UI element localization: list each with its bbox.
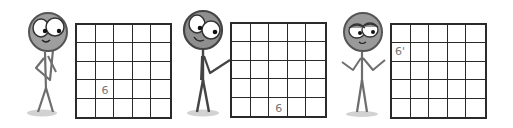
- grid-cell: [96, 62, 115, 80]
- ground-shadow: [187, 110, 219, 117]
- pupil: [358, 31, 362, 35]
- grid-cell: [269, 42, 288, 60]
- grid-5x5: 6: [75, 23, 172, 119]
- grid-cell: [232, 42, 251, 60]
- grid-cell: [288, 79, 307, 97]
- grid-2: 6: [230, 22, 327, 118]
- panel-3: 6': [330, 0, 513, 128]
- grid-cell: 6': [392, 43, 411, 61]
- grid-cell: [151, 25, 170, 43]
- grid-cell: [466, 43, 485, 61]
- grid-cell: [77, 80, 96, 98]
- grid-cell: [411, 99, 430, 117]
- grid-cell: [306, 98, 325, 116]
- grid-cell: [269, 24, 288, 42]
- grid-cell: [77, 25, 96, 43]
- grid-cell: [96, 99, 115, 117]
- panel-1: 6: [0, 0, 170, 128]
- grid-cell: [96, 43, 115, 61]
- pupil: [213, 30, 218, 35]
- grid-cell: [429, 99, 448, 117]
- grid-cell: [288, 98, 307, 116]
- pupil: [198, 26, 203, 31]
- grid-cell: [411, 43, 430, 61]
- grid-cell: [306, 42, 325, 60]
- grid-cell: [96, 25, 115, 43]
- ground-shadow: [346, 111, 378, 117]
- grid-1: 6: [75, 23, 172, 119]
- grid-cell: [251, 42, 270, 60]
- grid-cell: [466, 80, 485, 98]
- grid-cell: [251, 98, 270, 116]
- grid-cell: [232, 98, 251, 116]
- grid-cell: [466, 99, 485, 117]
- grid-cell: [251, 61, 270, 79]
- grid-cell: [288, 42, 307, 60]
- grid-cell: [269, 61, 288, 79]
- pupil: [43, 29, 47, 33]
- grid-cell: [306, 24, 325, 42]
- grid-cell: [133, 80, 152, 98]
- grid-cell: [448, 80, 467, 98]
- grid-cell: [429, 62, 448, 80]
- grid-cell: [77, 99, 96, 117]
- grid-cell: [448, 25, 467, 43]
- grid-cell: [429, 43, 448, 61]
- grid-cell: [392, 99, 411, 117]
- grid-cell: [251, 24, 270, 42]
- grid-cell: [151, 43, 170, 61]
- comic-strip: 6 6: [0, 0, 513, 128]
- grid-cell: [392, 62, 411, 80]
- grid-cell: 6: [269, 98, 288, 116]
- grid-5x5: 6': [390, 23, 487, 119]
- grid-cell: [306, 79, 325, 97]
- pupil: [57, 29, 61, 33]
- grid-cell: [392, 25, 411, 43]
- grid-cell: [448, 43, 467, 61]
- grid-cell: [77, 62, 96, 80]
- grid-cell: [288, 24, 307, 42]
- grid-cell: [114, 62, 133, 80]
- grid-cell: 6: [96, 80, 115, 98]
- grid-cell: [114, 80, 133, 98]
- grid-cell: [411, 80, 430, 98]
- grid-cell: [151, 62, 170, 80]
- grid-cell: [133, 62, 152, 80]
- grid-cell: [133, 99, 152, 117]
- grid-cell: [411, 25, 430, 43]
- panel-2: 6: [170, 0, 335, 128]
- grid-cell: [232, 61, 251, 79]
- grid-cell: [114, 43, 133, 61]
- penciled-digit: 6: [275, 103, 282, 114]
- grid-cell: [429, 25, 448, 43]
- grid-cell: [448, 99, 467, 117]
- grid-cell: [448, 62, 467, 80]
- grid-cell: [251, 79, 270, 97]
- grid-cell: [133, 43, 152, 61]
- grid-cell: [133, 25, 152, 43]
- pupil: [371, 30, 375, 34]
- penciled-digit: 6: [102, 85, 109, 96]
- grid-5x5: 6: [230, 22, 327, 118]
- grid-cell: [411, 62, 430, 80]
- grid-3: 6': [390, 23, 487, 119]
- grid-cell: [232, 79, 251, 97]
- grid-cell: [466, 25, 485, 43]
- grid-cell: [77, 43, 96, 61]
- grid-cell: [429, 80, 448, 98]
- grid-cell: [288, 61, 307, 79]
- grid-cell: [114, 99, 133, 117]
- grid-cell: [466, 62, 485, 80]
- grid-cell: [269, 79, 288, 97]
- grid-cell: [392, 80, 411, 98]
- grid-cell: [306, 61, 325, 79]
- grid-cell: [151, 80, 170, 98]
- grid-cell: [114, 25, 133, 43]
- grid-cell: [151, 99, 170, 117]
- grid-cell: [232, 24, 251, 42]
- penciled-digit: 6': [395, 46, 405, 57]
